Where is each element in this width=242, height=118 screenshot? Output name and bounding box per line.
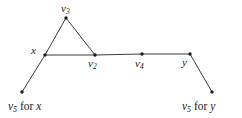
node-label-y: y: [182, 57, 187, 68]
caption-v5-for-y: v5 for y: [182, 101, 215, 113]
node-label-x: x: [31, 45, 36, 56]
edge-x-v3: [45, 18, 66, 55]
node-x: [43, 53, 46, 56]
edge-v2-v4: [95, 54, 142, 55]
node-label-v4: v4: [135, 58, 144, 69]
node-label-v2: v2: [88, 58, 97, 69]
edge-y-v5y: [190, 54, 212, 92]
node-v4: [140, 52, 143, 55]
node-v5x: [20, 90, 23, 93]
graph-diagram-figure: v3 x v2 v4 y v5 for x v5 for y: [0, 0, 242, 118]
node-label-v3: v3: [61, 3, 70, 14]
node-y: [188, 52, 191, 55]
node-v3: [64, 16, 67, 19]
graph-edges: [22, 18, 212, 92]
caption-v5-for-x: v5 for x: [8, 101, 41, 113]
node-v2: [93, 53, 96, 56]
edge-v3-v2: [66, 18, 95, 55]
edge-x-v5x: [22, 55, 45, 92]
node-v5y: [210, 90, 213, 93]
